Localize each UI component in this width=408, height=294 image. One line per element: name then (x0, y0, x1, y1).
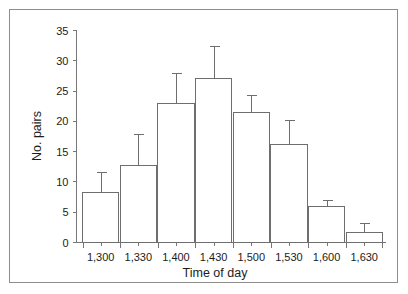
y-tick-label: 25 (56, 85, 68, 97)
y-tick-group: 05101520253035 (56, 25, 76, 249)
y-tick-label: 0 (62, 237, 68, 249)
x-tick-label: 1,330 (125, 251, 153, 263)
bar (233, 113, 269, 243)
y-tick-label: 10 (56, 176, 68, 188)
y-axis-title: No. pairs (30, 111, 44, 161)
x-tick-label: 1,530 (275, 251, 303, 263)
y-tick-label: 15 (56, 146, 68, 158)
bar (120, 166, 156, 243)
bar (195, 79, 231, 243)
x-tick-label: 1,430 (200, 251, 228, 263)
x-axis-title: Time of day (183, 266, 249, 280)
bar (158, 103, 194, 242)
bar-chart: 05101520253035 1,3001,3301,4001,4301,500… (0, 0, 408, 294)
bar (308, 206, 344, 242)
y-axis-group: 05101520253035 (56, 25, 76, 249)
x-axis-group (77, 243, 387, 248)
y-tick-label: 20 (56, 115, 68, 127)
x-tick-label: 1,600 (313, 251, 341, 263)
bars-layer (83, 79, 383, 243)
x-tick-label: 1,500 (238, 251, 266, 263)
x-tick-label: 1,400 (162, 251, 190, 263)
x-tick-group (84, 243, 383, 248)
y-tick-label: 35 (56, 25, 68, 37)
bar (83, 192, 119, 242)
x-tick-label: 1,630 (350, 251, 378, 263)
bar (271, 144, 307, 242)
x-tick-label-group: 1,3001,3301,4001,4301,5001,5301,6001,630 (87, 251, 378, 263)
y-tick-label: 30 (56, 55, 68, 67)
bar (346, 233, 382, 243)
y-tick-label: 5 (62, 206, 68, 218)
figure-root: 05101520253035 1,3001,3301,4001,4301,500… (0, 0, 408, 294)
x-tick-label: 1,300 (87, 251, 115, 263)
